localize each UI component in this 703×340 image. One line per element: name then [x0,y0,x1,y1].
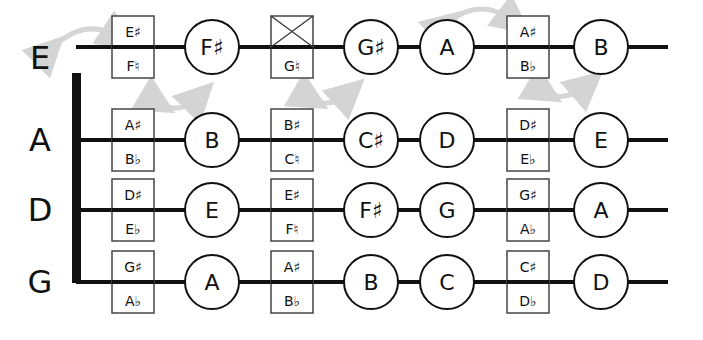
string-e: EE♯F♮F♯G♮G♯AA♯B♭B [30,16,668,78]
note-label: D [593,270,610,295]
note-label: B [204,128,219,153]
flat-note-label: E♭ [125,221,140,237]
note-label: A [204,270,219,295]
flat-note-label: B♭ [125,151,141,167]
string-label: G [28,263,53,301]
flat-note-label: G♮ [284,58,300,74]
note-label: B [593,35,608,60]
flat-note-label: B♭ [284,293,300,309]
sharp-note-label: D♯ [519,117,537,133]
note-label: F♯ [359,198,382,223]
note-label: F♯ [200,35,223,60]
nut [72,73,81,283]
flat-note-label: B♭ [520,58,536,74]
flat-note-label: D♭ [519,293,536,309]
sharp-note-label: A♯ [520,24,536,40]
sharp-note-label: D♯ [124,187,142,203]
sharp-note-label: G♯ [124,259,142,275]
sharp-note-label: B♯ [284,117,300,133]
sharp-note-label: G♯ [519,187,537,203]
note-label: E [594,128,608,153]
string-label: A [29,121,51,159]
flat-note-label: F♮ [126,58,139,74]
string-a: AA♯B♭BB♯C♮C♯DD♯E♭E [29,109,668,171]
string-label: D [28,191,53,229]
note-label: E [205,198,219,223]
flat-note-label: F♮ [285,221,298,237]
note-label: G [438,198,455,223]
string-label: E [30,39,50,77]
sharp-note-label: E♯ [125,24,141,40]
sharp-note-label: A♯ [284,259,300,275]
swap-arrow-icon [311,92,350,103]
note-label: A [439,35,454,60]
note-label: C [439,270,454,295]
flat-note-label: A♭ [125,293,141,309]
sharp-note-label: A♯ [125,117,141,133]
swap-arrow-icon [158,96,200,108]
sharp-note-label: C♯ [520,259,537,275]
note-label: G♯ [357,35,385,60]
fingerboard-diagram: EE♯F♮F♯G♮G♯AA♯B♭BAA♯B♭BB♯C♮C♯DD♯E♭EDD♯E♭… [0,0,703,340]
flat-note-label: A♭ [520,221,536,237]
string-d: DD♯E♭EE♯F♮F♯GG♯A♭A [28,179,668,241]
note-label: A [593,198,608,223]
swap-arrow-icon [545,84,588,97]
sharp-note-label: E♯ [284,187,300,203]
flat-note-label: E♭ [520,151,535,167]
string-g: GG♯A♭AA♯B♭BCC♯D♭D [28,251,668,313]
note-label: C♯ [358,128,384,153]
note-label: D [439,128,456,153]
flat-note-label: C♮ [285,151,300,167]
note-label: B [363,270,378,295]
